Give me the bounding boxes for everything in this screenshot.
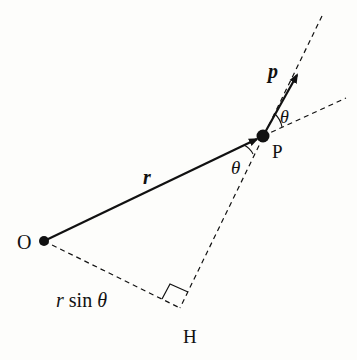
vector-r <box>44 139 257 241</box>
angular-momentum-diagram: O P H r p θ θ r sin θ <box>0 0 357 360</box>
rsin-r: r <box>56 289 64 311</box>
point-p-dot <box>257 130 270 143</box>
line-of-action-p <box>180 16 322 308</box>
label-r-sin-theta: r sin θ <box>56 289 107 311</box>
label-vector-p: p <box>266 60 278 83</box>
angle-arc-lower <box>244 145 253 154</box>
label-vector-r: r <box>143 166 151 188</box>
label-theta-lower: θ <box>231 157 240 178</box>
rsin-sin: sin <box>64 289 97 311</box>
point-o-dot <box>39 236 49 246</box>
label-o: O <box>17 231 31 253</box>
rsin-theta: θ <box>97 289 107 311</box>
r-extension-dashed <box>263 98 346 136</box>
label-theta-upper: θ <box>280 107 289 127</box>
label-p: P <box>272 141 283 162</box>
right-angle-marker <box>162 284 188 299</box>
label-h: H <box>183 326 197 347</box>
